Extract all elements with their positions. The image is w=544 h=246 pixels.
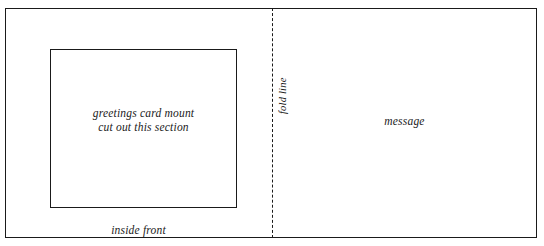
- message-panel-label: message: [272, 115, 537, 127]
- fold-line-label: fold line: [276, 54, 290, 114]
- greetings-card-diagram: greetings card mount cut out this sectio…: [0, 0, 544, 246]
- card-mount-label: greetings card mount cut out this sectio…: [51, 106, 236, 134]
- inside-front-panel-label: inside front: [5, 224, 272, 236]
- card-mount-cutout-rect: greetings card mount cut out this sectio…: [50, 49, 237, 208]
- card-mount-label-line-1: greetings card mount: [51, 106, 236, 120]
- inside-front-panel: greetings card mount cut out this sectio…: [5, 8, 272, 238]
- card-mount-label-line-2: cut out this section: [51, 120, 236, 134]
